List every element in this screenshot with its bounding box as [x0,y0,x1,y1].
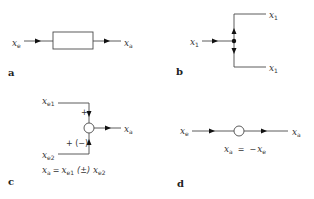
panel-c-equation: xa=xe1(±)xe2 [42,165,106,176]
summing-junction-circle [84,123,94,133]
arrow-right-icon [105,126,111,131]
panel-c-sign1: + [81,108,88,117]
panel-a-output-label: xa [124,38,133,49]
panel-d-input-label: xe [180,126,189,137]
arrow-right-icon [261,129,267,134]
panel-b: x1 x1 x1 b [176,10,278,77]
panel-a-letter: a [8,67,15,78]
panel-d-equation: xa=−xe [224,144,266,155]
panel-c: xe1 + xa + (−) xe2 xa=xe1(±)xe2 c [8,96,133,187]
panel-d: xe xa xa=−xe d [177,126,301,189]
panel-a: xe xa a [8,32,133,78]
inverting-junction-circle [234,126,244,136]
panel-b-letter: b [176,66,183,77]
arrow-down-icon [232,48,237,54]
panel-b-top-output-label: x1 [269,10,278,21]
panel-a-input-label: xe [12,38,21,49]
panel-c-input1-label: xe1 [42,96,55,107]
panel-c-input2-label: xe2 [42,150,55,161]
branch-point-dot [232,39,236,43]
arrow-up-icon [232,28,237,34]
panel-c-letter: c [8,176,14,187]
panel-d-output-label: xa [292,127,301,138]
panel-c-sign2: + (−) [66,139,88,148]
arrow-right-icon [35,39,41,44]
transfer-block [53,32,93,49]
arrow-right-icon [209,129,215,134]
panel-c-output-label: xa [124,124,133,135]
panel-b-bottom-output-label: x1 [269,63,278,74]
block-diagram-elements: xe xa a x1 x1 x1 b xe1 + xa + (− [0,0,314,199]
panel-d-letter: d [177,178,184,189]
panel-b-input-label: x1 [190,37,199,48]
arrow-right-icon [104,39,110,44]
arrow-right-icon [212,39,218,44]
